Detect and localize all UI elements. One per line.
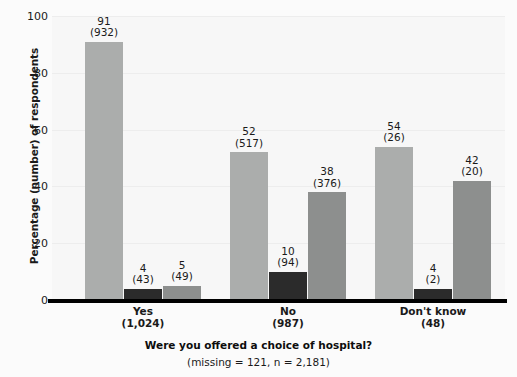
bar-count: (932) — [90, 27, 118, 39]
bar-percent: 10 — [277, 246, 299, 258]
x-axis-line — [48, 299, 507, 303]
bar-count: (49) — [171, 271, 193, 283]
bar-value-label: 4(2) — [426, 263, 441, 286]
category-name: Yes — [83, 305, 203, 317]
bar-count: (2) — [426, 274, 441, 286]
category-label: Yes(1,024) — [83, 305, 203, 329]
y-tick-label: 80 — [4, 66, 48, 79]
category-name: No — [228, 305, 348, 317]
bar: 52(517) — [230, 152, 268, 300]
y-tick-label: 100 — [4, 10, 48, 23]
bar: 42(20) — [453, 181, 491, 300]
bar-value-label: 91(932) — [90, 16, 118, 39]
bar-count: (376) — [313, 178, 341, 190]
bar: 10(94) — [269, 272, 307, 300]
bar-count: (94) — [277, 257, 299, 269]
bar: 91(932) — [85, 42, 123, 300]
bar-percent: 5 — [171, 260, 193, 272]
y-tick-label: 60 — [4, 123, 48, 136]
category-count: (1,024) — [83, 317, 203, 329]
plot-area: 91(932)4(43)5(49)52(517)10(94)38(376)54(… — [52, 16, 505, 300]
bar: 5(49) — [163, 286, 201, 300]
bar-count: (517) — [235, 138, 263, 150]
bar-value-label: 4(43) — [132, 263, 154, 286]
bar-percent: 52 — [235, 126, 263, 138]
bar-count: (26) — [383, 132, 405, 144]
category-name: Don't know — [373, 305, 493, 317]
bar-count: (43) — [132, 274, 154, 286]
bar-percent: 4 — [426, 263, 441, 275]
category-count: (987) — [228, 317, 348, 329]
y-axis-ticks: 020406080100 — [0, 16, 48, 300]
bar-percent: 54 — [383, 121, 405, 133]
bar-percent: 4 — [132, 263, 154, 275]
bar-percent: 91 — [90, 16, 118, 28]
y-tick-label: 40 — [4, 180, 48, 193]
x-axis-subtitle: (missing = 121, n = 2,181) — [0, 356, 517, 368]
bar: 54(26) — [375, 147, 413, 300]
category-label: Don't know(48) — [373, 305, 493, 329]
bar-count: (20) — [461, 166, 483, 178]
bar-value-label: 52(517) — [235, 126, 263, 149]
bar-value-label: 10(94) — [277, 246, 299, 269]
bar-value-label: 5(49) — [171, 260, 193, 283]
y-tick-label: 20 — [4, 237, 48, 250]
bar: 38(376) — [308, 192, 346, 300]
y-tick-label: 0 — [4, 294, 48, 307]
gridline — [52, 16, 505, 17]
bar-chart: Percentage (number) of respondents 91(93… — [0, 0, 517, 377]
bar-percent: 38 — [313, 166, 341, 178]
bar-value-label: 38(376) — [313, 166, 341, 189]
bar-value-label: 42(20) — [461, 155, 483, 178]
bar-value-label: 54(26) — [383, 121, 405, 144]
bar-percent: 42 — [461, 155, 483, 167]
category-label: No(987) — [228, 305, 348, 329]
category-count: (48) — [373, 317, 493, 329]
x-axis-title: Were you offered a choice of hospital? — [0, 339, 517, 351]
